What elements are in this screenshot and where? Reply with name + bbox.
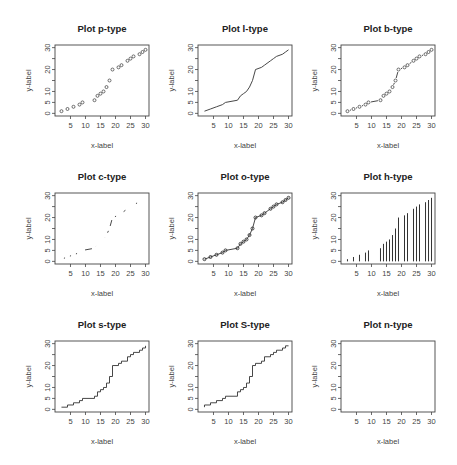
plot-panel-p-type: Plot p-type 05102030 51015202530 x-label… [0,0,152,155]
plot-area [60,48,147,112]
data-segment [394,83,395,85]
x-tick-label: 20 [111,417,119,426]
plot-panel-s-type: Plot s-type 05102030 51015202530 x-label… [0,296,152,451]
data-point [394,79,397,82]
data-point [72,105,75,108]
y-tick-label: 30 [329,191,338,199]
x-axis: 51015202530 [354,412,435,426]
data-point [78,103,81,106]
x-tick-label: 15 [96,417,104,426]
y-tick-label: 10 [186,87,195,95]
plot-area [61,346,145,407]
y-tick-label: 5 [186,248,195,252]
data-point [120,64,123,67]
x-tick-label: 20 [254,269,262,278]
y-tick-label: 0 [186,407,195,411]
data-segment [108,231,109,233]
x-tick-label: 30 [427,121,435,130]
data-point [138,53,141,56]
y-tick-label: 10 [329,383,338,391]
plot-title: Plot o-type [220,171,269,182]
x-tick-label: 25 [412,121,420,130]
y-tick-label: 10 [329,235,338,243]
y-tick-label: 5 [186,100,195,104]
y-tick-label: 10 [43,87,52,95]
y-tick-label: 10 [186,235,195,243]
x-tick-label: 5 [68,269,72,278]
y-tick-label: 0 [43,407,52,411]
data-segment [85,249,92,250]
plot-area [347,198,431,262]
x-tick-label: 5 [354,417,358,426]
plot-area [64,203,137,258]
data-point [60,110,63,113]
x-tick-label: 10 [224,121,232,130]
data-line [204,198,288,259]
x-tick-label: 20 [254,417,262,426]
y-axis: 05102030 [186,191,198,263]
y-tick-label: 5 [186,396,195,400]
y-axis-label: y-label [24,69,33,91]
data-point [117,66,120,69]
x-tick-label: 25 [269,269,277,278]
data-point [397,68,400,71]
x-tick-label: 5 [68,121,72,130]
y-tick-label: 5 [43,248,52,252]
plot-svg: Plot b-type 05102030 51015202530 x-label… [286,0,438,155]
plot-box [55,341,149,412]
data-point [427,51,430,54]
y-tick-label: 0 [329,407,338,411]
y-axis-label: y-label [24,217,33,239]
data-segment [396,72,398,78]
y-tick-label: 10 [186,383,195,391]
data-point [364,103,367,106]
plot-grid: Plot p-type 05102030 51015202530 x-label… [0,0,457,465]
plot-panel-b-type: Plot b-type 05102030 51015202530 x-label… [286,0,438,155]
data-point [108,79,111,82]
data-point [105,86,108,89]
x-tick-label: 30 [427,269,435,278]
y-tick-label: 5 [329,100,338,104]
data-point [424,53,427,56]
data-point [430,48,433,51]
plot-panel-h-type: Plot h-type 05102030 51015202530 x-label… [286,148,438,303]
y-tick-label: 5 [43,100,52,104]
data-segment [371,101,378,102]
data-point [129,57,132,60]
data-point [418,55,421,58]
x-axis-label: x-label [91,437,113,446]
plot-svg: Plot h-type 05102030 51015202530 x-label… [286,148,438,303]
data-point [111,68,114,71]
y-tick-label: 0 [329,259,338,263]
x-axis: 51015202530 [354,264,435,278]
y-tick-label: 20 [186,213,195,221]
data-point [379,99,382,102]
x-tick-label: 20 [111,269,119,278]
y-tick-label: 30 [43,43,52,51]
data-point [81,101,84,104]
data-point [382,94,385,97]
plot-svg: Plot p-type 05102030 51015202530 x-label… [0,0,152,155]
y-axis: 05102030 [43,339,55,411]
x-tick-label: 25 [126,417,134,426]
x-tick-label: 30 [427,417,435,426]
y-tick-label: 5 [329,396,338,400]
data-point [388,90,391,93]
x-tick-label: 5 [211,121,215,130]
y-axis-label: y-label [167,217,176,239]
plot-box [341,341,435,412]
data-point [403,66,406,69]
x-tick-label: 5 [354,269,358,278]
data-point [367,101,370,104]
data-point [102,90,105,93]
x-axis: 51015202530 [211,116,292,130]
data-point [66,107,69,110]
x-tick-label: 15 [382,121,390,130]
plot-area [346,48,433,112]
y-tick-label: 5 [43,396,52,400]
data-point [415,57,418,60]
x-tick-label: 10 [81,269,89,278]
plot-title: Plot l-type [222,23,268,34]
plot-title: Plot h-type [363,171,412,182]
data-point [412,59,415,62]
